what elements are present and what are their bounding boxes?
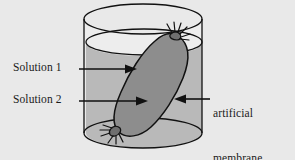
label-artificial-membrane: artificial membrane of model cell [213, 76, 262, 160]
label-membrane-line-1: artificial [213, 106, 262, 121]
label-solution-2: Solution 2 [13, 92, 62, 107]
label-solution-1: Solution 1 [13, 60, 62, 75]
label-membrane-line-2: membrane [213, 151, 262, 160]
osmosis-model-cell-diagram: Solution 1 Solution 2 artificial membran… [0, 0, 295, 160]
